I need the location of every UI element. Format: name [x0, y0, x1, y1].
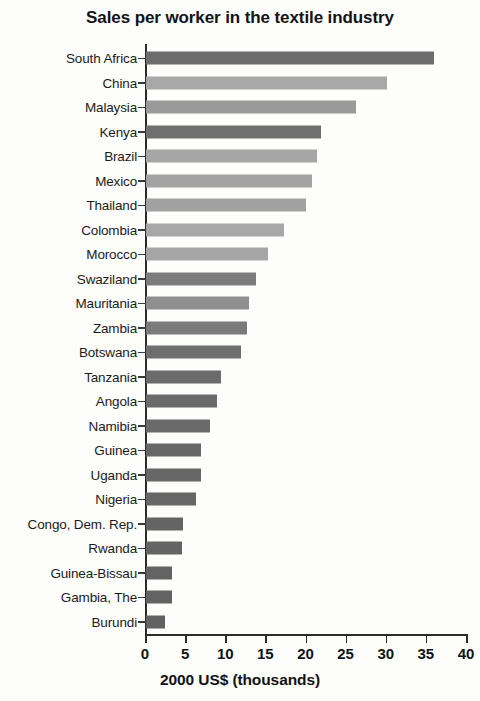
y-axis-tick — [138, 474, 146, 476]
bar — [146, 52, 434, 65]
category-label: Rwanda — [88, 541, 137, 556]
y-axis-tick — [138, 425, 146, 427]
category-label: Uganda — [91, 467, 137, 482]
bar — [146, 542, 182, 555]
bar-row: Uganda — [0, 463, 480, 488]
x-axis-tick-label: 30 — [377, 645, 394, 662]
bar — [146, 615, 165, 628]
bar — [146, 395, 217, 408]
bar — [146, 297, 249, 310]
bar — [146, 248, 268, 261]
y-axis-tick — [138, 597, 146, 599]
y-axis-tick — [138, 205, 146, 207]
y-axis-tick — [138, 82, 146, 84]
bar-row: Zambia — [0, 316, 480, 341]
bar — [146, 321, 247, 334]
x-axis-tick-label: 25 — [337, 645, 354, 662]
bar-row: Morocco — [0, 242, 480, 267]
y-axis-tick — [138, 327, 146, 329]
category-label: South Africa — [66, 51, 137, 66]
y-axis-tick — [138, 180, 146, 182]
x-axis-tick — [185, 634, 187, 643]
category-label: Nigeria — [95, 492, 137, 507]
bar — [146, 76, 387, 89]
x-axis-tick-label: 15 — [257, 645, 274, 662]
bar-row: Mexico — [0, 169, 480, 194]
category-label: Congo, Dem. Rep. — [28, 516, 137, 531]
y-axis-tick — [138, 58, 146, 60]
category-label: Swaziland — [77, 271, 137, 286]
y-axis-tick — [138, 523, 146, 525]
y-axis-tick — [138, 548, 146, 550]
bar-row: Burundi — [0, 610, 480, 635]
bar — [146, 272, 256, 285]
bar — [146, 444, 201, 457]
category-label: Gambia, The — [61, 590, 137, 605]
bar — [146, 591, 172, 604]
bar-row: Malaysia — [0, 95, 480, 120]
bar — [146, 125, 321, 138]
bar-row: Guinea-Bissau — [0, 561, 480, 586]
x-axis-tick — [426, 634, 428, 643]
y-axis-tick — [138, 572, 146, 574]
bar-row: Congo, Dem. Rep. — [0, 512, 480, 537]
category-label: Thailand — [86, 198, 137, 213]
category-label: Angola — [96, 394, 137, 409]
y-axis-tick — [138, 278, 146, 280]
x-axis-tick-label: 35 — [418, 645, 435, 662]
category-label: China — [102, 75, 137, 90]
x-axis-tick — [265, 634, 267, 643]
category-label: Colombia — [81, 222, 137, 237]
bar-row: Angola — [0, 389, 480, 414]
x-axis-tick-label: 40 — [458, 645, 475, 662]
y-axis-tick — [138, 450, 146, 452]
bar-row: South Africa — [0, 46, 480, 71]
category-label: Mexico — [95, 173, 137, 188]
category-label: Guinea-Bissau — [50, 565, 137, 580]
bar-row: Nigeria — [0, 487, 480, 512]
x-axis-tick-label: 10 — [217, 645, 234, 662]
y-axis-tick — [138, 156, 146, 158]
x-axis-tick — [466, 634, 468, 643]
y-axis-tick — [138, 401, 146, 403]
category-label: Morocco — [86, 247, 137, 262]
y-axis-tick — [138, 254, 146, 256]
x-axis-tick — [306, 634, 308, 643]
bar-row: Swaziland — [0, 267, 480, 292]
bar-row: Gambia, The — [0, 585, 480, 610]
x-axis-tick-label: 5 — [181, 645, 189, 662]
bar — [146, 101, 356, 114]
y-axis-tick — [138, 107, 146, 109]
y-axis-tick — [138, 499, 146, 501]
bar-row: Tanzania — [0, 365, 480, 390]
bar — [146, 468, 201, 481]
category-label: Brazil — [104, 149, 137, 164]
x-axis-tick — [346, 634, 348, 643]
category-label: Malaysia — [85, 100, 137, 115]
category-label: Kenya — [99, 124, 137, 139]
bar-row: Rwanda — [0, 536, 480, 561]
y-axis-tick — [138, 229, 146, 231]
bar-row: Guinea — [0, 438, 480, 463]
bar — [146, 566, 172, 579]
x-axis-tick — [225, 634, 227, 643]
bar — [146, 199, 306, 212]
category-label: Guinea — [94, 443, 137, 458]
bar-row: Colombia — [0, 218, 480, 243]
bar-row: Thailand — [0, 193, 480, 218]
bar-row: Mauritania — [0, 291, 480, 316]
category-label: Botswana — [79, 345, 137, 360]
category-label: Mauritania — [75, 296, 137, 311]
category-label: Tanzania — [84, 369, 137, 384]
x-axis-title: 2000 US$ (thousands) — [0, 671, 480, 689]
bar — [146, 150, 317, 163]
bar — [146, 370, 221, 383]
bar-row: Kenya — [0, 120, 480, 145]
category-label: Namibia — [89, 418, 137, 433]
bar-row: Botswana — [0, 340, 480, 365]
x-axis-tick-label: 20 — [297, 645, 314, 662]
y-axis-tick — [138, 303, 146, 305]
bar — [146, 346, 241, 359]
plot-area: South AfricaChinaMalaysiaKenyaBrazilMexi… — [0, 0, 480, 701]
x-axis-tick-label: 0 — [141, 645, 149, 662]
